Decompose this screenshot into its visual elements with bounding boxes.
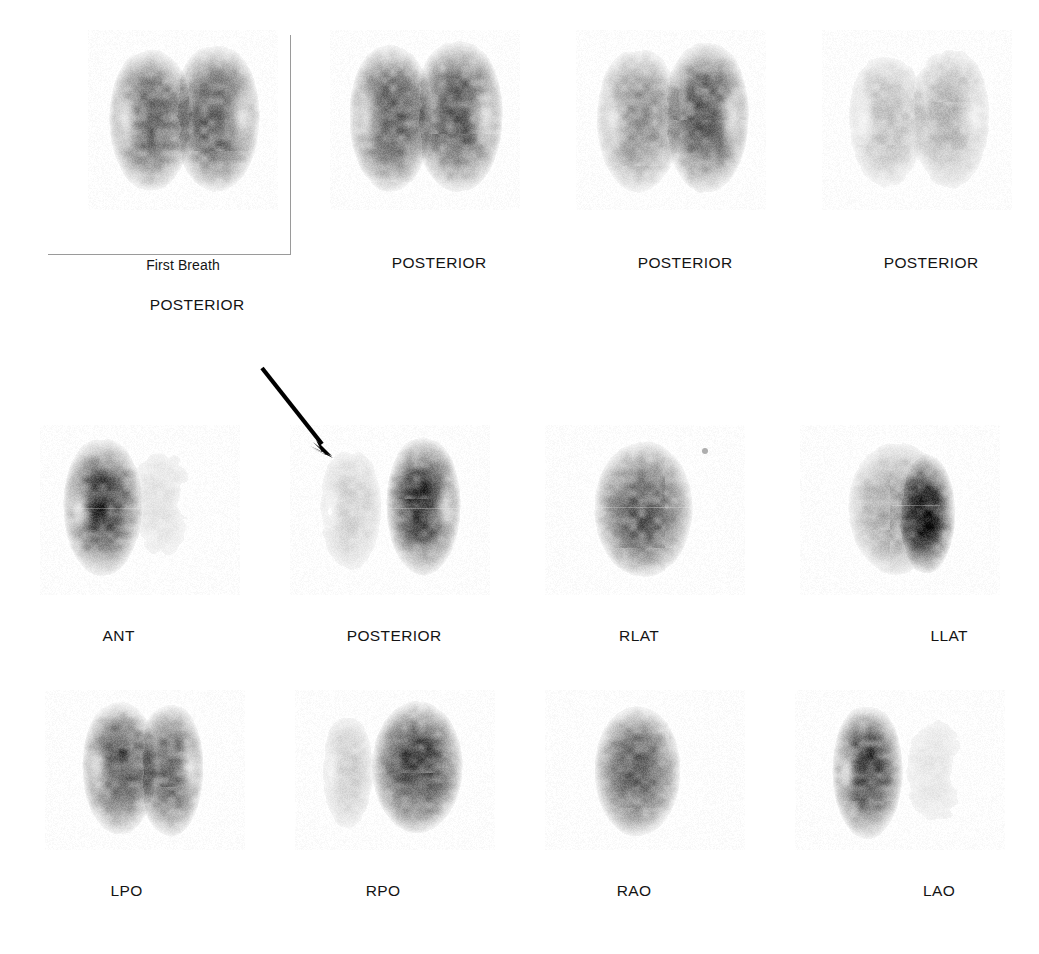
scan-caption: POSTERIOR [290,607,470,664]
scan-caption: LPO [45,862,180,919]
scan-caption: RPO [295,862,443,919]
scan-caption-main: LPO [111,882,143,899]
scan-panel-p-llat: LLAT [800,425,1000,640]
scintigram-image [290,425,490,595]
scintigram-image [822,30,1012,210]
scan-caption: POSTERIOR [822,234,1012,291]
scan-caption: First Breath POSTERIOR [88,215,278,335]
scan-caption: LLAT [855,607,1015,664]
scan-caption: POSTERIOR [576,234,766,291]
scan-caption-top: First Breath [88,255,278,275]
scintigram-image [88,30,278,210]
scan-panel-p-rpo: RPO [295,690,495,890]
scan-caption-main: ANT [103,627,135,644]
scan-caption-main: POSTERIOR [392,254,487,271]
scan-panel-p-posterior: POSTERIOR [290,425,490,640]
scan-caption-main: RLAT [619,627,659,644]
scan-caption-main: POSTERIOR [150,296,245,313]
scan-panel-v-posterior-3: POSTERIOR [576,30,766,260]
scintigram-image [795,690,1005,850]
scan-caption-main: POSTERIOR [347,627,442,644]
vq-scan-figure: First Breath POSTERIOR POSTERIOR POSTERI… [0,0,1039,954]
scan-caption-main: RAO [617,882,652,899]
scan-caption-main: POSTERIOR [884,254,979,271]
scan-caption-main: POSTERIOR [638,254,733,271]
scintigram-image [545,425,745,595]
scan-caption: LAO [850,862,1000,919]
scan-panel-p-rlat: RLAT [545,425,745,640]
scintigram-image [40,425,240,595]
scan-caption-main: LAO [923,882,955,899]
scintigram-image [330,30,520,210]
scintigram-image [800,425,1000,595]
scintigram-image [576,30,766,210]
scan-caption: RLAT [545,607,705,664]
scan-panel-v-posterior-2: POSTERIOR [330,30,520,260]
scan-caption-main: RPO [366,882,401,899]
scan-panel-p-lao: LAO [795,690,1005,890]
scan-caption: RAO [545,862,695,919]
scan-caption: POSTERIOR [330,234,520,291]
scintigram-image [545,690,745,850]
scan-caption: ANT [40,607,170,664]
scintigram-image [45,690,245,850]
scintigram-image [295,690,495,850]
scan-caption-main: LLAT [930,627,968,644]
scan-panel-p-ant: ANT [40,425,240,640]
scan-panel-v-posterior-4: POSTERIOR [822,30,1012,260]
scan-panel-v-first-breath-posterior: First Breath POSTERIOR [88,30,278,260]
scan-panel-p-lpo: LPO [45,690,245,890]
scan-panel-p-rao: RAO [545,690,745,890]
